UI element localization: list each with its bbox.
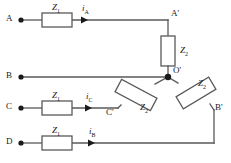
impedance-label-z2-cp: Z2 xyxy=(140,103,148,114)
terminal-label-d: D xyxy=(6,137,13,146)
impedance-label-z1-d: Z1 xyxy=(52,126,60,137)
impedance-label-z1-c: Z1 xyxy=(52,91,60,102)
impedance-box-z2-ap xyxy=(161,36,175,66)
current-subscript: C xyxy=(89,97,93,103)
junction-dot-op xyxy=(165,74,171,80)
impedance-label-z2-ap: Z2 xyxy=(180,46,188,57)
node-label-bp: B' xyxy=(215,103,223,112)
impedance-box-z1-d xyxy=(42,136,72,150)
impedance-label-z2-bp: Z2 xyxy=(198,79,206,90)
impedance-subscript: 2 xyxy=(145,108,148,114)
current-arrow-ib xyxy=(88,140,95,147)
current-label-ib: iB xyxy=(89,127,96,138)
current-label-ic: iC xyxy=(86,92,93,103)
terminal-label-b: B xyxy=(6,71,12,80)
impedance-box-z1-c xyxy=(42,101,72,115)
terminal-dot-a xyxy=(18,17,23,22)
terminal-dot-b xyxy=(18,74,23,79)
terminal-label-c: C xyxy=(6,102,12,111)
current-subscript: B xyxy=(92,132,96,138)
impedance-subscript: 2 xyxy=(185,51,188,57)
impedance-subscript: 1 xyxy=(57,96,60,102)
current-arrow-ic xyxy=(85,105,92,112)
impedance-subscript: 1 xyxy=(57,131,60,137)
impedance-subscript: 2 xyxy=(203,84,206,90)
current-arrow-ia xyxy=(81,17,88,24)
impedance-box-z1-a xyxy=(42,13,72,27)
terminal-label-a: A xyxy=(6,14,13,23)
impedance-subscript: 1 xyxy=(57,8,60,14)
node-label-ap: A' xyxy=(171,9,179,18)
node-label-cp: C' xyxy=(106,108,114,117)
terminal-dot-d xyxy=(18,140,23,145)
node-label-op: O' xyxy=(173,66,181,75)
circuit-wiring xyxy=(0,0,231,163)
impedance-label-z1-a: Z1 xyxy=(52,3,60,14)
current-subscript: A xyxy=(85,9,89,15)
wire-z2bp-to-bp xyxy=(210,104,214,110)
terminal-dot-c xyxy=(18,105,23,110)
circuit-diagram: A B C D A' O' B' C' Z1 Z1 Z1 Z2 Z2 Z2 iA… xyxy=(0,0,231,163)
current-label-ia: iA xyxy=(82,4,89,15)
impedance-box-z2-cp xyxy=(115,79,157,110)
wire-z2cp-to-cp xyxy=(118,105,121,108)
